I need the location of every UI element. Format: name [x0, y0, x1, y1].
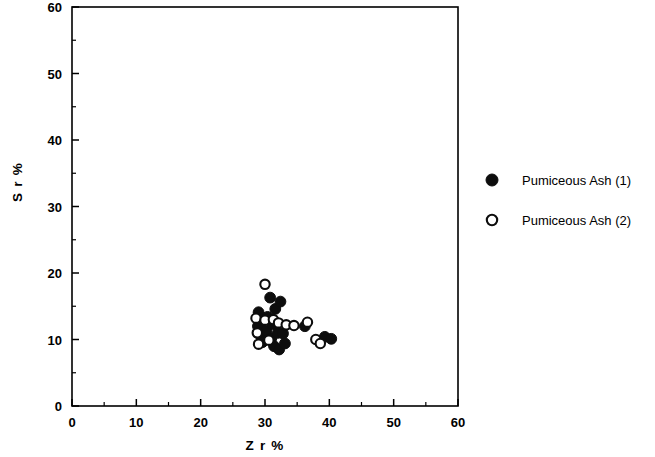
- data-point-filled: [275, 296, 286, 307]
- data-point-open: [251, 314, 260, 323]
- data-point-open: [316, 339, 325, 348]
- x-tick-label: 30: [258, 415, 272, 430]
- y-tick-label: 10: [48, 333, 62, 348]
- legend-marker-filled: [486, 174, 498, 186]
- legend-label: Pumiceous Ash (1): [522, 173, 631, 188]
- data-point-open: [253, 328, 262, 337]
- x-tick-label: 20: [193, 415, 207, 430]
- x-tick-label: 50: [386, 415, 400, 430]
- x-tick-label: 60: [451, 415, 465, 430]
- data-point-open: [303, 318, 312, 327]
- x-tick-label: 40: [322, 415, 336, 430]
- y-tick-label: 50: [48, 67, 62, 82]
- data-point-open: [254, 339, 263, 348]
- data-point-filled: [265, 292, 276, 303]
- y-tick-label: 20: [48, 266, 62, 281]
- y-tick-label: 30: [48, 200, 62, 215]
- legend-marker-open: [487, 215, 497, 225]
- y-axis-title: S r %: [10, 162, 25, 202]
- scatter-plot-figure: 01020304050600102030405060 Z r % S r % P…: [0, 0, 655, 457]
- data-point-open: [260, 280, 269, 289]
- y-tick-label: 0: [55, 399, 62, 414]
- x-axis-title: Z r %: [245, 438, 284, 453]
- data-point-open: [264, 335, 273, 344]
- axis-tick-labels: 01020304050600102030405060: [48, 0, 466, 430]
- x-tick-label: 10: [129, 415, 143, 430]
- data-point-filled: [280, 338, 291, 349]
- y-tick-label: 60: [48, 0, 62, 15]
- data-points: [251, 280, 336, 355]
- chart-canvas: 01020304050600102030405060 Z r % S r % P…: [0, 0, 655, 457]
- x-tick-label: 0: [68, 415, 75, 430]
- y-tick-label: 40: [48, 133, 62, 148]
- data-point-filled: [326, 333, 337, 344]
- data-point-open: [289, 321, 298, 330]
- legend: Pumiceous Ash (1)Pumiceous Ash (2): [486, 173, 631, 228]
- legend-label: Pumiceous Ash (2): [522, 213, 631, 228]
